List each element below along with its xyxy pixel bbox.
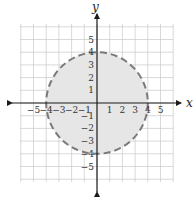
x-tick-label: 3 [132, 105, 138, 115]
y-tick-label: −4 [81, 149, 95, 159]
x-tick-label: 1 [107, 105, 113, 115]
y-tick-label: 3 [88, 60, 94, 70]
x-tick-label: −2 [65, 105, 78, 115]
x-tick-label: 4 [145, 105, 151, 115]
x-axis-label: x [186, 96, 193, 110]
y-tick-label: −2 [81, 123, 94, 133]
y-tick-label: 2 [88, 73, 94, 83]
y-tick-label: 1 [88, 85, 94, 95]
x-tick-label: −3 [52, 105, 66, 115]
y-axis-label: y [91, 0, 99, 14]
y-tick-label: 5 [88, 35, 94, 45]
x-tick-label: 5 [158, 105, 164, 115]
x-tick-label: −5 [27, 105, 41, 115]
y-tick-label: 4 [88, 47, 94, 57]
y-tick-label: −3 [81, 136, 95, 146]
y-tick-label: −1 [81, 111, 94, 121]
x-tick-label: −4 [40, 105, 54, 115]
x-tick-label: 2 [120, 105, 126, 115]
graph: −5−4−3−2−112345 −5−4−3−2−112345 x y [0, 0, 196, 199]
y-tick-label: −5 [81, 162, 95, 172]
